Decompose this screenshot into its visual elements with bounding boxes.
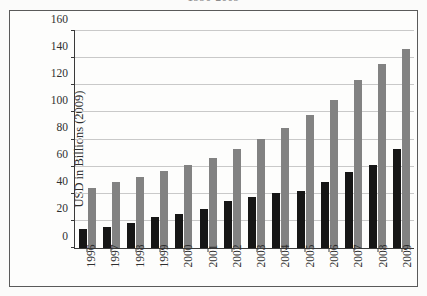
bar — [112, 182, 120, 248]
y-tick-label: 120 — [51, 68, 68, 80]
bar-group — [341, 31, 365, 248]
bar-group — [390, 31, 414, 248]
bar-group — [293, 31, 317, 248]
bar — [378, 64, 386, 248]
bar — [393, 149, 401, 248]
x-axis-tick-labels: 1996199719981999200020012002200320042005… — [74, 254, 414, 294]
chart-title-text: 1996-2009 — [0, 0, 427, 3]
bar-group — [123, 31, 147, 248]
y-tick-label: 140 — [51, 41, 68, 53]
x-tick-label: 2009 — [402, 245, 414, 268]
x-tick-label-cell: 2006 — [317, 254, 341, 294]
x-tick-label: 2006 — [329, 245, 341, 268]
x-tick-label-cell: 2001 — [195, 254, 219, 294]
x-tick-label: 1997 — [110, 245, 122, 268]
x-tick-label-cell: 1997 — [98, 254, 122, 294]
y-tick-label: 80 — [57, 122, 69, 133]
bar — [160, 171, 168, 248]
bar — [248, 197, 256, 248]
bar-group — [196, 31, 220, 248]
x-tick-label-cell: 2005 — [293, 254, 317, 294]
bar — [151, 217, 159, 248]
bar — [306, 115, 314, 248]
bar-group — [172, 31, 196, 248]
bar — [321, 182, 329, 248]
bar — [402, 49, 410, 248]
y-tick-label: 0 — [62, 231, 68, 243]
x-tick-label-cell: 2008 — [365, 254, 389, 294]
y-tick-label: 160 — [51, 14, 68, 26]
x-tick-label-cell: 2002 — [220, 254, 244, 294]
x-tick-label: 2007 — [353, 245, 365, 268]
chart-title-cropped: 1996-2009 — [0, 0, 427, 7]
x-tick-label: 2002 — [232, 245, 244, 268]
bar — [281, 128, 289, 248]
bar-group — [245, 31, 269, 248]
x-tick-label-cell: 1996 — [74, 254, 98, 294]
y-tick-label: 60 — [57, 149, 69, 161]
bar — [233, 149, 241, 248]
bar — [354, 80, 362, 248]
bar-group — [75, 31, 99, 248]
bar — [224, 201, 232, 248]
bar-group — [99, 31, 123, 248]
bar — [345, 172, 353, 248]
bar-group — [269, 31, 293, 248]
bar — [88, 188, 96, 248]
x-tick-label-cell: 1999 — [147, 254, 171, 294]
x-tick-label-cell: 2007 — [341, 254, 365, 294]
x-tick-label: 1999 — [159, 245, 171, 268]
y-tick-label: 40 — [57, 176, 69, 188]
x-tick-label-cell: 2004 — [268, 254, 292, 294]
plot-area: 020406080100120140160 — [74, 31, 414, 249]
bar — [136, 177, 144, 248]
x-tick-label-cell: 2003 — [244, 254, 268, 294]
bar — [209, 158, 217, 248]
bar — [330, 100, 338, 248]
bar-group — [366, 31, 390, 248]
bar-group — [148, 31, 172, 248]
bar — [257, 139, 265, 248]
bar-group — [220, 31, 244, 248]
x-tick-label: 2001 — [208, 245, 220, 268]
x-tick-label-cell: 1998 — [123, 254, 147, 294]
figure-frame: USD in Billions (2009) 02040608010012014… — [9, 10, 418, 287]
x-tick-label: 2008 — [378, 245, 390, 268]
x-tick-label-cell: 2009 — [390, 254, 414, 294]
x-tick-label-cell: 2000 — [171, 254, 195, 294]
bar — [175, 214, 183, 248]
x-tick-label: 2004 — [280, 245, 292, 268]
bar — [297, 191, 305, 248]
bar-group — [317, 31, 341, 248]
bar — [184, 165, 192, 248]
bar-groups — [75, 31, 414, 248]
x-tick-label: 1996 — [86, 245, 98, 268]
bar — [200, 209, 208, 248]
x-tick-label: 2003 — [256, 245, 268, 268]
y-tick-label: 100 — [51, 95, 68, 107]
x-tick-label: 2005 — [305, 245, 317, 268]
y-tick-label: 20 — [57, 203, 69, 215]
bar — [272, 193, 280, 248]
figure-page: 1996-2009 USD in Billions (2009) 0204060… — [0, 0, 427, 296]
bar — [369, 165, 377, 248]
x-tick-label: 2000 — [183, 245, 195, 268]
x-tick-label: 1998 — [135, 245, 147, 268]
